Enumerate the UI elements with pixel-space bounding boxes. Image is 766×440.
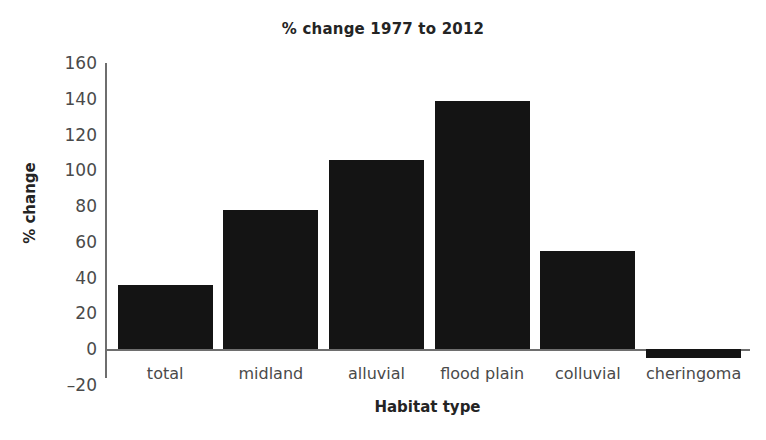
x-axis-title: Habitat type <box>105 398 750 416</box>
y-tick-label: 60 <box>41 234 97 251</box>
y-tick-label: 0 <box>41 341 97 358</box>
bar-alluvial <box>329 160 424 349</box>
bar-cheringoma <box>646 349 741 358</box>
x-tick-label: cheringoma <box>646 364 741 383</box>
y-axis-title-wrapper: % change <box>2 120 32 300</box>
x-tick-label: midland <box>223 364 318 383</box>
x-tick-label: colluvial <box>540 364 635 383</box>
bar-series <box>105 55 760 365</box>
y-tick-label: –20 <box>41 377 97 394</box>
y-tick-label: 140 <box>41 91 97 108</box>
bar-midland <box>223 210 318 349</box>
x-tick-label: flood plain <box>435 364 530 383</box>
y-tick-label: 40 <box>41 270 97 287</box>
bar-colluvial <box>540 251 635 349</box>
x-axis-tick-labels: totalmidlandalluvialflood plaincolluvial… <box>105 364 760 390</box>
y-tick-label: 80 <box>41 198 97 215</box>
y-tick-label: 120 <box>41 127 97 144</box>
bar-total <box>118 285 213 349</box>
x-tick-label: alluvial <box>329 364 424 383</box>
x-tick-label: total <box>118 364 213 383</box>
bar-flood-plain <box>435 101 530 349</box>
chart-title: % change 1977 to 2012 <box>0 20 766 38</box>
y-tick-label: 100 <box>41 162 97 179</box>
y-axis-tick-labels: 160140120100806040200–20 <box>33 55 97 395</box>
y-tick-label: 160 <box>41 55 97 72</box>
y-tick-label: 20 <box>41 305 97 322</box>
chart-figure: % change 1977 to 2012 % change 160140120… <box>0 0 766 440</box>
plot-area <box>105 55 760 365</box>
